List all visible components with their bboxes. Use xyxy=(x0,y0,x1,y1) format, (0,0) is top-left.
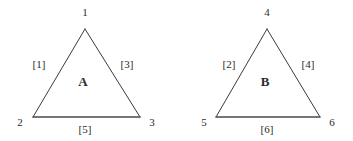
triangle-b-vertex-label-4: 4 xyxy=(264,7,270,18)
triangle-a-edge-label-left: [1] xyxy=(33,59,46,70)
triangle-b-face-label: B xyxy=(261,75,270,88)
triangle-a-vertex-label-3: 3 xyxy=(149,117,155,128)
figure-canvas: 1 2 3 [1] [3] [5] A 4 5 6 [2] [4] [6] B xyxy=(0,0,353,141)
triangles-diagram xyxy=(0,0,353,141)
triangle-b-edge-label-left: [2] xyxy=(223,59,236,70)
triangle-b-edge-label-base: [6] xyxy=(261,124,274,135)
triangle-a-edge-label-right: [3] xyxy=(121,59,134,70)
triangle-a-vertex-label-1: 1 xyxy=(82,7,88,18)
triangle-a-edge-label-base: [5] xyxy=(79,124,92,135)
triangle-a-vertex-label-2: 2 xyxy=(17,117,23,128)
triangle-a-edge-right xyxy=(85,29,140,117)
triangle-b-edge-left xyxy=(216,29,267,117)
triangle-b-edge-label-right: [4] xyxy=(302,59,315,70)
triangle-b-vertex-label-5: 5 xyxy=(201,117,207,128)
triangle-a-edge-left xyxy=(33,29,85,117)
triangle-a-face-label: A xyxy=(78,75,87,88)
triangle-b-edge-right xyxy=(267,29,320,117)
triangle-b-vertex-label-6: 6 xyxy=(329,117,335,128)
